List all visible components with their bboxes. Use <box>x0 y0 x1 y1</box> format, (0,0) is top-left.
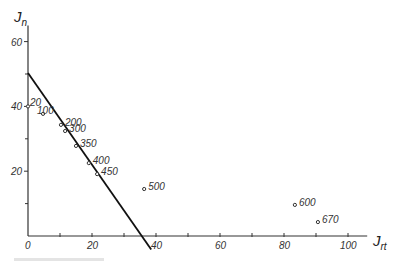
data-point-label: 670 <box>322 214 339 225</box>
data-point <box>87 162 90 165</box>
data-point <box>293 203 296 206</box>
data-points: 20100200300350400450500600670 <box>26 97 339 225</box>
data-point-label: 450 <box>101 166 118 177</box>
data-point <box>96 173 99 176</box>
data-point-label: 100 <box>37 105 54 116</box>
y-tick-label: 60 <box>11 37 23 48</box>
data-point-label: 350 <box>80 138 97 149</box>
x-tick-label: 60 <box>215 240 227 251</box>
data-point-label: 400 <box>93 155 110 166</box>
x-axis-label: Jrt <box>372 232 388 252</box>
y-tick-label: 20 <box>10 166 23 177</box>
data-point-label: 600 <box>299 197 316 208</box>
ticks: 020406080100204060 <box>10 37 357 251</box>
x-tick-label: 40 <box>151 240 163 251</box>
x-tick-label: 20 <box>86 240 99 251</box>
y-axis-label: Jn <box>13 8 28 28</box>
data-point-label: 300 <box>69 123 86 134</box>
chart: 020406080100204060 201002003003504004505… <box>0 0 399 265</box>
data-point <box>316 220 319 223</box>
x-tick-label: 0 <box>25 240 31 251</box>
data-point <box>74 144 77 147</box>
data-point <box>143 187 146 190</box>
x-tick-label: 80 <box>279 240 291 251</box>
data-point <box>64 129 67 132</box>
data-point <box>59 123 62 126</box>
x-tick-label: 100 <box>340 240 357 251</box>
y-tick-label: 40 <box>11 101 23 112</box>
figure-caption <box>14 258 104 261</box>
data-point-label: 500 <box>148 181 165 192</box>
